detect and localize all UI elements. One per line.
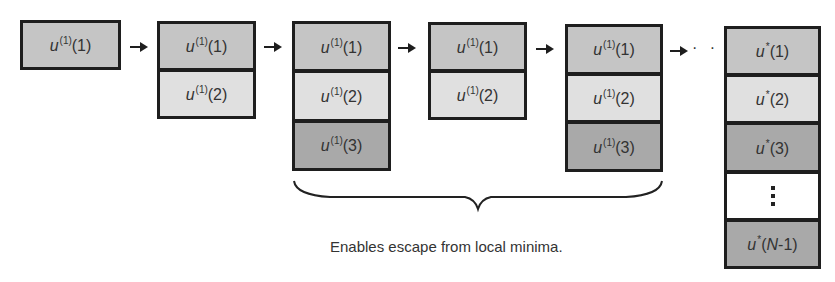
cell: u(1)(2) [568,72,660,121]
cell-label: u(1)(1) [186,36,228,56]
cell: u(1)(2) [431,69,524,117]
stack-final: u*(1)u*(2)u*(3)u*(N-1) [724,26,821,269]
cell: u(1)(2) [160,68,253,116]
cell-label: u(1)(3) [321,135,363,155]
cell-label: u(1)(2) [186,84,228,104]
cell: u(1)(1) [295,24,388,69]
cell-label: u(1)(1) [50,35,92,55]
cell-label: u(1)(1) [321,37,363,57]
cell-label: u(1)(1) [457,37,499,57]
cell: u(1)(1) [568,27,660,72]
cell: u(1)(1) [160,24,253,68]
cell: u(1)(2) [295,69,388,118]
cell [727,170,818,218]
cell: u(1)(3) [295,119,388,168]
stack-2: u(1)(1)u(1)(2) [157,21,256,119]
stack-4: u(1)(1)u(1)(2) [428,22,527,120]
brace [290,175,670,215]
cell-label: u(1)(2) [321,86,363,106]
cell-label: u*(N-1) [747,234,797,254]
cell: u*(2) [727,73,818,121]
arrow-1 [130,46,146,48]
cell-label: u(1)(1) [593,39,635,59]
cell: u(1)(1) [23,23,118,67]
stack-3: u(1)(1)u(1)(2)u(1)(3) [292,21,391,171]
cell-label: u(1)(2) [457,85,499,105]
cell: u*(N-1) [727,218,818,266]
brace-caption: Enables escape from local minima. [330,238,563,255]
cell-label: u*(1) [756,41,789,61]
arrow-4 [536,48,552,50]
cell-label: u*(2) [756,89,789,109]
vertical-ellipsis-icon [771,186,775,206]
arrow-3 [398,47,414,49]
cell: u(1)(3) [568,120,660,169]
cell-label: u(1)(3) [593,137,635,157]
arrow-5 [670,50,686,52]
cell-label: u*(3) [756,138,789,158]
stack-1: u(1)(1) [20,20,121,70]
cell-label: u(1)(2) [593,88,635,108]
cell: u*(3) [727,121,818,169]
stack-5: u(1)(1)u(1)(2)u(1)(3) [565,24,663,172]
cell: u(1)(1) [431,25,524,69]
arrow-2 [264,46,280,48]
cell: u*(1) [727,29,818,73]
